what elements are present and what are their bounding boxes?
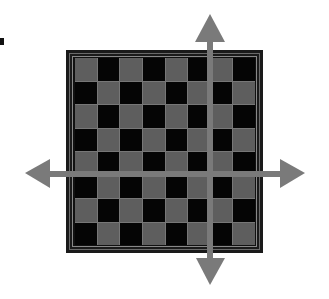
arrow-down-icon [196, 258, 225, 285]
vertical-arrow-shaft [207, 30, 213, 258]
arrow-left-icon [25, 159, 50, 188]
arrow-right-icon [280, 159, 305, 188]
arrow-up-icon [195, 14, 225, 42]
direction-arrows [0, 0, 329, 299]
horizontal-arrow-shaft [45, 171, 290, 177]
